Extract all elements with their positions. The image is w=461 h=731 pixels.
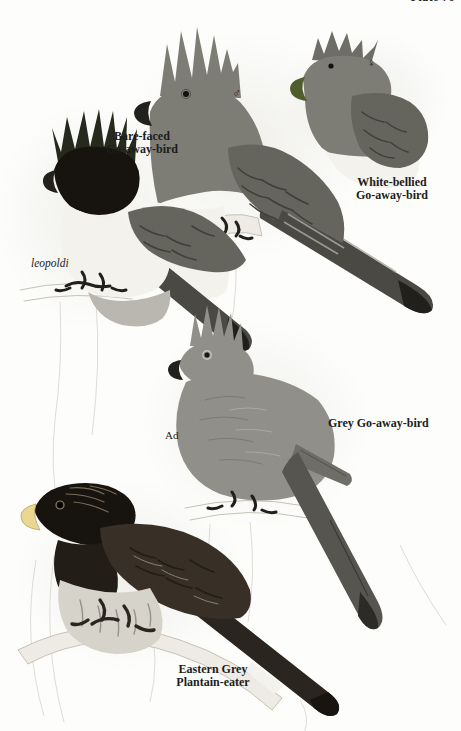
- plate-illustration: [0, 0, 461, 731]
- label-bare-faced-go-away-bird: Bare-faced Go-away-bird: [86, 130, 198, 156]
- label-age-ad: Ad: [165, 429, 178, 442]
- label-subspecies-leopoldi: leopoldi: [31, 257, 69, 270]
- label-line: Plantain-eater: [167, 676, 259, 689]
- female-symbol-white-bellied: ♀: [367, 57, 376, 70]
- eye: [328, 63, 333, 68]
- eye: [58, 503, 63, 508]
- plate-number: Plate 76: [411, 0, 455, 5]
- male-symbol: ♂: [232, 87, 241, 100]
- label-white-bellied-go-away-bird: White-bellied Go-away-bird: [342, 176, 442, 202]
- female-symbol-plantain-eater: ♀: [129, 511, 138, 524]
- field-guide-plate: Plate 76 Bare-faced Go-away-bird leopold…: [0, 0, 461, 731]
- label-line: Go-away-bird: [86, 143, 198, 156]
- eye: [205, 353, 210, 358]
- label-grey-go-away-bird: Grey Go-away-bird: [328, 417, 429, 430]
- eye: [183, 91, 189, 97]
- label-line: Go-away-bird: [342, 189, 442, 202]
- label-eastern-grey-plantain-eater: Eastern Grey Plantain-eater: [167, 663, 259, 689]
